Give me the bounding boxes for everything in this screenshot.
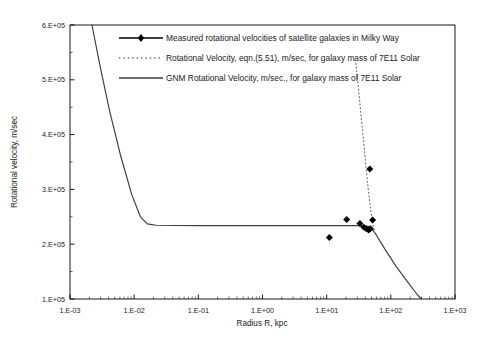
x-tick-label: 1.E-01 <box>188 306 209 315</box>
y-tick-label: 5.E+05 <box>42 75 65 84</box>
y-tick-label: 4.E+05 <box>42 130 65 139</box>
y-tick-label: 3.E+05 <box>42 185 65 194</box>
chart-svg: 1.E-031.E-021.E-011.E+001.E+011.E+021.E+… <box>0 0 489 342</box>
chart-background <box>0 0 489 342</box>
x-tick-label: 1.E+02 <box>379 306 402 315</box>
x-axis-title: Radius R, kpc <box>237 319 288 328</box>
x-tick-label: 1.E+01 <box>315 306 338 315</box>
x-tick-label: 1.E+00 <box>251 306 274 315</box>
legend-label-measured: Measured rotational velocities of satell… <box>166 33 400 43</box>
x-tick-label: 1.E-03 <box>59 306 80 315</box>
x-tick-label: 1.E-02 <box>124 306 145 315</box>
y-tick-label: 2.E+05 <box>42 240 65 249</box>
y-tick-label: 1.E+05 <box>42 295 65 304</box>
y-tick-label: 6.E+05 <box>42 21 65 30</box>
chart-figure: 1.E-031.E-021.E-011.E+001.E+011.E+021.E+… <box>0 0 489 342</box>
x-tick-label: 1.E+03 <box>444 306 467 315</box>
y-axis-title: Rotational velocity, m/sec <box>10 116 19 208</box>
legend-label-gnm: GNM Rotational Velocity, m/sec., for gal… <box>166 73 401 83</box>
legend-label-eqn551: Rotational Velocity, eqn.(5.51), m/sec, … <box>166 53 420 63</box>
